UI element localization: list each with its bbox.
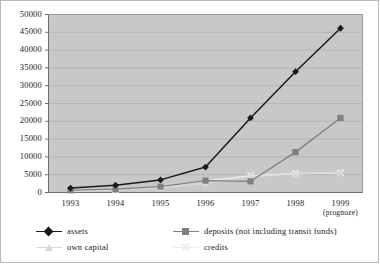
x-tick-label-year: 1996	[197, 198, 215, 208]
x-tick-label-year: 1995	[152, 198, 170, 208]
x-tick-label-year: 1999	[332, 198, 350, 208]
x-tick-label-note: (prognoze)	[316, 208, 366, 218]
data-point	[202, 178, 208, 184]
chart-legend: assets own capital deposits (not includi…	[0, 218, 380, 260]
legend-item-credits[interactable]: credits	[173, 240, 228, 254]
legend-item-own-capital[interactable]: own capital	[36, 240, 109, 254]
x-tick-label: 1999(prognoze)	[316, 198, 366, 218]
x-tick-label: 1996	[181, 198, 231, 208]
y-tick-label: 30000	[0, 81, 42, 90]
square-marker-icon	[173, 226, 199, 237]
x-tick-label: 1995	[136, 198, 186, 208]
y-tick-label: 0	[0, 188, 42, 197]
legend-item-assets[interactable]: assets	[36, 224, 88, 238]
y-tick-label: 15000	[0, 134, 42, 143]
x-tick-label-year: 1993	[62, 198, 80, 208]
x-tick-label-year: 1998	[287, 198, 305, 208]
y-tick-label: 45000	[0, 27, 42, 36]
legend-label-credits: credits	[204, 242, 228, 253]
data-point	[337, 115, 343, 121]
x-tick-label: 1997	[226, 198, 276, 208]
y-tick-label: 40000	[0, 45, 42, 54]
x-tick-label: 1993	[46, 198, 96, 208]
y-tick-label: 20000	[0, 116, 42, 125]
y-tick-label: 35000	[0, 63, 42, 72]
y-tick-label: 50000	[0, 10, 42, 19]
y-tick-label: 25000	[0, 99, 42, 108]
legend-label-assets: assets	[67, 226, 88, 237]
chart-figure: 0500010000150002000025000300003500040000…	[0, 0, 380, 264]
data-point	[247, 178, 253, 184]
x-tick-label-year: 1994	[107, 198, 125, 208]
legend-item-deposits[interactable]: deposits (not including transit funds)	[173, 224, 337, 238]
x-tick-label-year: 1997	[242, 198, 260, 208]
diamond-marker-icon	[36, 226, 62, 237]
y-tick-label: 10000	[0, 152, 42, 161]
legend-label-own-capital: own capital	[67, 242, 109, 253]
data-point	[157, 184, 163, 190]
chart-canvas	[0, 0, 380, 216]
y-tick-label: 5000	[0, 170, 42, 179]
legend-label-deposits: deposits (not including transit funds)	[204, 226, 337, 237]
x-tick-label: 1994	[91, 198, 141, 208]
x-tick-label: 1998	[271, 198, 321, 208]
plot-area: 0500010000150002000025000300003500040000…	[0, 0, 380, 216]
data-point	[292, 149, 298, 155]
triangle-marker-icon	[36, 242, 62, 253]
x-marker-icon	[173, 242, 199, 253]
